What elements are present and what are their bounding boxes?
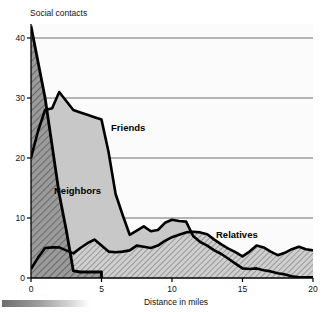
x-tick-label-15: 15 [238,284,248,294]
y-tick-label-0: 0 [20,273,25,283]
y-tick-label-20: 20 [16,153,26,163]
y-tick-label-10: 10 [16,213,26,223]
chart-container: 40 30 20 10 0 0 5 10 15 20 Social contac… [0,0,333,312]
decorative-gradient-bar [2,300,90,307]
x-tick-label-20: 20 [308,284,318,294]
y-axis-title: Social contacts [30,8,87,18]
series-annotation-friends: Friends [111,122,145,133]
x-tick-label-0: 0 [29,284,34,294]
series-annotation-relatives: Relatives [216,229,258,240]
social-contacts-area-chart: 40 30 20 10 0 0 5 10 15 20 Social contac… [0,0,333,312]
y-tick-label-40: 40 [16,33,26,43]
x-tick-label-5: 5 [99,284,104,294]
x-axis-title: Distance in miles [144,297,208,307]
y-tick-label-30: 30 [16,93,26,103]
x-tick-label-10: 10 [167,284,177,294]
series-annotation-neighbors: Neighbors [54,185,101,196]
